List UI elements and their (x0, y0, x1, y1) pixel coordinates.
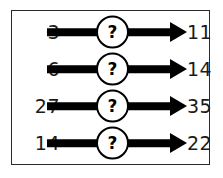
arrow-head-icon (170, 59, 187, 79)
output-number: 14 (187, 60, 223, 79)
arrow-head-icon (170, 22, 187, 42)
question-mark-icon: ? (108, 23, 118, 40)
function-machine-diagram: 3 ? 11 6 ? 14 27 ? 35 14 (11, 10, 210, 165)
question-mark-icon: ? (108, 97, 118, 114)
question-mark-icon: ? (108, 60, 118, 77)
machine-row: 27 ? 35 (12, 87, 209, 125)
question-mark-icon: ? (108, 134, 118, 151)
unknown-operation-node[interactable]: ? (96, 127, 129, 160)
arrow-head-icon (170, 133, 187, 153)
machine-row: 6 ? 14 (12, 50, 209, 88)
output-number: 22 (187, 134, 223, 153)
output-number: 35 (187, 97, 223, 116)
output-number: 11 (187, 23, 223, 42)
machine-row: 14 ? 22 (12, 124, 209, 162)
arrow-head-icon (170, 96, 187, 116)
unknown-operation-node[interactable]: ? (96, 90, 129, 123)
unknown-operation-node[interactable]: ? (96, 53, 129, 86)
machine-row: 3 ? 11 (12, 13, 209, 51)
unknown-operation-node[interactable]: ? (96, 16, 129, 49)
